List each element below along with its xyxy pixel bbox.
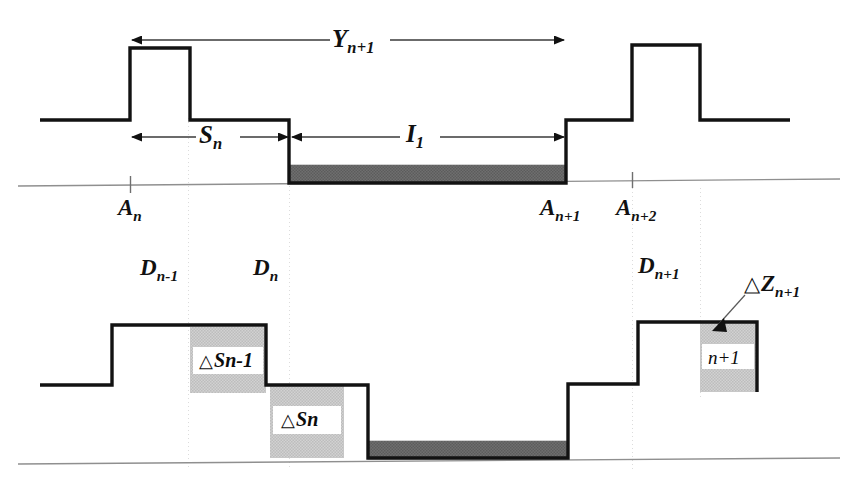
block-label-delta-S-n-minus-1: △Sn-1: [199, 350, 253, 370]
block-label-delta-S-n: △Sn: [281, 409, 318, 429]
axis-tick-label-A-n-plus-1: An+1: [540, 196, 581, 223]
upper-waveform-trace: [40, 45, 790, 183]
dimension-label-I: I1: [406, 121, 424, 152]
figure-canvas: Yn+1 Sn I1 An An+1 An+2 Dn-1 Dn Dn+1 △Zn…: [0, 0, 857, 485]
axis-tick-label-A-n: An: [118, 196, 142, 223]
waveform-diagram: [0, 0, 857, 485]
lower-waveform-trace: [40, 322, 757, 458]
axis-tick-label-A-n-plus-2: An+2: [616, 196, 657, 223]
callout-label-delta-Z: △Zn+1: [744, 272, 800, 299]
lower-shaded-blocks: [190, 322, 756, 458]
region-label-D-n-minus-1: Dn-1: [140, 256, 178, 283]
upper-shaded-interval: [289, 165, 566, 183]
region-label-D-n: Dn: [253, 256, 278, 283]
dimension-label-S: Sn: [199, 122, 222, 153]
block-label-n-plus-1: n+1: [708, 348, 740, 367]
dimension-label-Y: Yn+1: [332, 26, 375, 57]
region-label-D-n-plus-1: Dn+1: [638, 254, 680, 281]
